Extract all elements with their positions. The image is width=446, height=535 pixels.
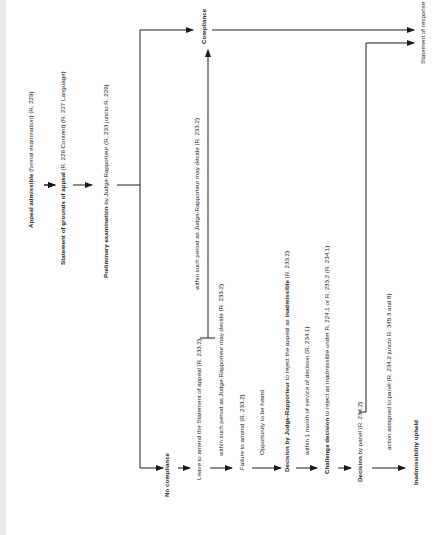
- label-opportunity-heard: Opportunity to be heard: [258, 389, 265, 455]
- node-inadmissibility-upheld: Inadmissibility upheld: [412, 420, 419, 485]
- label-within-period-failure: within such period as Judge-Rapporteur m…: [217, 284, 224, 457]
- flowchart: Appeal admissible (formal examination) (…: [0, 0, 446, 535]
- label-within-period-compliance: within such period as Judge-Rapporteur m…: [193, 118, 200, 291]
- node-compliance: Compliance: [200, 8, 207, 44]
- node-challenge-decision: Challenge decision to reject as inadmiss…: [323, 246, 330, 474]
- node-no-compliance: No compliance: [163, 452, 170, 497]
- node-leave-to-amend: Leave to amend the Statement of appeal (…: [195, 339, 202, 480]
- node-statement-response: Statement of response: [419, 1, 426, 64]
- node-decision-panel: Decision by panel (R. 234.2): [356, 402, 363, 482]
- node-appeal-admissible: Appeal admissible (formal examination) (…: [27, 91, 34, 228]
- node-preliminary-exam: Preliminary examination by Judge-Rapport…: [102, 84, 109, 278]
- node-decision-jr: Decision by Judge-Rapporteur to reject t…: [283, 251, 290, 472]
- node-failure-to-amend: Failure to amend (R. 233.2): [238, 394, 245, 470]
- label-action-assigned: action assigned to panel (R. 234.2 junct…: [385, 293, 392, 450]
- node-statement-grounds: Statement of grounds of appeal (R. 226 C…: [59, 71, 66, 265]
- label-within-1-month: within 1 month of service of decision (R…: [303, 326, 310, 456]
